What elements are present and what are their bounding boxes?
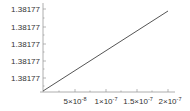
x-ticks xyxy=(59,89,168,92)
x-tick-label: 1×10-7 xyxy=(95,96,118,106)
x-tick-label: 1.5×10-7 xyxy=(123,96,153,106)
y-ticks xyxy=(43,9,46,86)
y-tick-label: 1.38177 xyxy=(11,57,40,66)
y-tick-label: 1.38177 xyxy=(11,23,40,32)
x-tick-label: 2×10-7 xyxy=(159,96,182,106)
y-tick-label: 1.38177 xyxy=(11,5,40,14)
y-tick-label: 1.38177 xyxy=(11,74,40,83)
y-tick-label: 1.38177 xyxy=(11,40,40,49)
x-tick-label: 5×10-8 xyxy=(64,96,87,106)
line-chart: 1.38177 1.38177 1.38177 1.38177 1.38177 … xyxy=(0,0,190,111)
data-line xyxy=(43,11,168,91)
